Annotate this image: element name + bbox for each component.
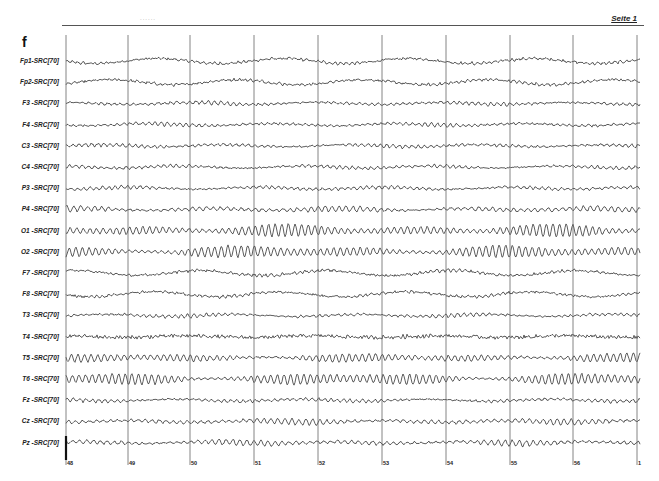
time-marker-label: 49 [129,460,135,466]
eeg-trace [66,57,640,65]
time-marker-label: 48 [67,460,73,466]
time-marker-label: 55 [511,460,517,466]
time-marker-label: 1 [638,460,641,466]
eeg-trace [66,334,640,340]
eeg-trace [66,205,640,212]
eeg-trace [66,353,640,363]
eeg-trace [66,164,640,170]
time-marker-label: 52 [319,460,325,466]
eeg-trace [66,101,640,107]
time-marker-label: 50 [191,460,197,466]
time-marker-label: 53 [383,460,389,466]
eeg-trace [66,143,640,149]
time-marker-label: 51 [255,460,261,466]
eeg-trace [66,290,640,298]
eeg-trace [66,398,640,404]
eeg-trace [66,122,640,128]
eeg-trace [66,78,640,86]
eeg-trace [66,185,640,191]
eeg-trace [66,313,640,319]
eeg-trace [66,245,640,258]
eeg-trace [66,418,640,425]
eeg-trace [66,439,640,447]
eeg-trace [66,224,640,237]
eeg-trace [66,373,640,385]
eeg-traces [0,0,659,481]
eeg-trace [66,269,640,277]
time-marker-label: 56 [574,460,580,466]
time-marker-label: 54 [447,460,453,466]
